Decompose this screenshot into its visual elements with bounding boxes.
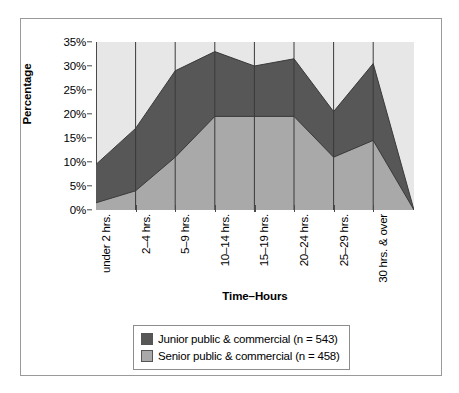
y-axis: 0%5%10%15%20%25%30%35% <box>40 42 92 210</box>
x-tick-mark <box>334 205 335 212</box>
legend-swatch-icon <box>141 350 153 362</box>
plot-area <box>96 42 414 210</box>
y-tick-label: 15% <box>64 132 86 144</box>
y-axis-title: Percentage <box>21 34 33 154</box>
x-tick-mark <box>373 205 374 212</box>
x-tick-mark <box>215 205 216 212</box>
x-tick-label: 30 hrs. & over <box>377 214 389 283</box>
x-tick-label: 20–24 hrs. <box>298 214 310 266</box>
x-tick-label: 2–4 hrs. <box>140 214 152 254</box>
area-series-svg <box>96 42 414 210</box>
x-tick-mark <box>294 205 295 212</box>
y-tick-label: 30% <box>64 60 86 72</box>
y-tick-label: 35% <box>64 36 86 48</box>
legend-item[interactable]: Junior public & commercial (n = 543) <box>141 330 340 347</box>
x-tick-label: 5–9 hrs. <box>179 214 191 254</box>
y-tick-label: 20% <box>64 108 86 120</box>
y-tick-mark <box>87 113 92 114</box>
y-tick-mark <box>87 137 92 138</box>
legend-label: Senior public & commercial (n = 458) <box>158 350 340 362</box>
y-tick-label: 5% <box>70 180 86 192</box>
y-tick-mark <box>87 41 92 42</box>
y-tick-mark <box>87 65 92 66</box>
x-tick-label: under 2 hrs. <box>100 214 112 273</box>
x-tick-mark <box>136 205 137 212</box>
y-tick-label: 25% <box>64 84 86 96</box>
x-axis: under 2 hrs.2–4 hrs.5–9 hrs.10–14 hrs.15… <box>96 212 414 292</box>
legend-item[interactable]: Senior public & commercial (n = 458) <box>141 347 340 364</box>
x-tick-mark <box>254 205 255 212</box>
chart-legend: Junior public & commercial (n = 543)Seni… <box>133 325 350 370</box>
y-tick-label: 10% <box>64 156 86 168</box>
y-tick-mark <box>87 89 92 90</box>
y-tick-label: 0% <box>70 204 86 216</box>
x-tick-label: 15–19 hrs. <box>258 214 270 266</box>
legend-swatch-icon <box>141 333 153 345</box>
x-tick-mark <box>175 205 176 212</box>
x-tick-label: 10–14 hrs. <box>219 214 231 266</box>
x-tick-label: 25–29 hrs. <box>338 214 350 266</box>
chart-figure: Percentage 0%5%10%15%20%25%30%35% under … <box>0 0 459 393</box>
y-tick-mark <box>87 209 92 210</box>
y-tick-mark <box>87 161 92 162</box>
legend-label: Junior public & commercial (n = 543) <box>158 333 338 345</box>
y-tick-mark <box>87 185 92 186</box>
x-axis-title: Time–Hours <box>96 290 414 302</box>
